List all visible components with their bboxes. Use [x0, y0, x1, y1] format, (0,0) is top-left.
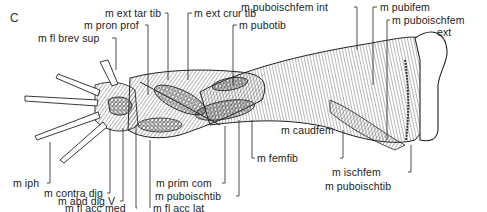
- label-m-puboischtib-left: m puboischtib: [155, 190, 221, 202]
- label-m-pubotib: m pubotib: [239, 19, 286, 31]
- label-m-prim-com: m prim com: [156, 177, 212, 189]
- foot-digits: [25, 60, 138, 163]
- label-m-puboischfem-int: m puboischfem int: [241, 1, 328, 13]
- label-m-puboischtib-right: m puboischtib: [325, 180, 391, 192]
- label-m-femfib: m femfib: [257, 152, 298, 164]
- label-m-ischfem: m ischfem: [332, 166, 381, 178]
- label-m-puboischfem-ext: m puboischfem: [392, 14, 465, 26]
- label-m-fl-acc-lat: m fl acc lat: [153, 202, 204, 212]
- panel-letter: C: [10, 11, 19, 25]
- anatomy-figure: C m ext tar tib m ext crur tib m pron pr…: [0, 0, 487, 212]
- label-m-pubifem: m pubifem: [380, 1, 430, 13]
- label-m-pron-prof: m pron prof: [84, 19, 139, 31]
- label-m-ext-tar-tib: m ext tar tib: [105, 7, 161, 19]
- label-m-puboischfem-ext-cont: ext: [437, 26, 451, 38]
- label-m-caudfem: m caudfem: [281, 124, 334, 136]
- label-m-fl-acc-med: m fl acc med: [65, 202, 126, 212]
- label-m-fl-brev-sup: m fl brev sup: [38, 32, 99, 44]
- shank-muscles: [128, 70, 265, 138]
- label-m-iph: m iph: [13, 177, 39, 189]
